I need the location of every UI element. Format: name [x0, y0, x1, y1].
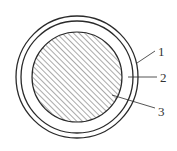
hatched-core [30, 30, 124, 124]
label-1: 1 [158, 44, 165, 59]
cross-section-diagram: 1 2 3 [0, 0, 177, 151]
label-3: 3 [158, 104, 165, 119]
label-2: 2 [160, 70, 167, 85]
leader-line-1 [137, 51, 155, 63]
leader-line-3 [112, 95, 155, 108]
